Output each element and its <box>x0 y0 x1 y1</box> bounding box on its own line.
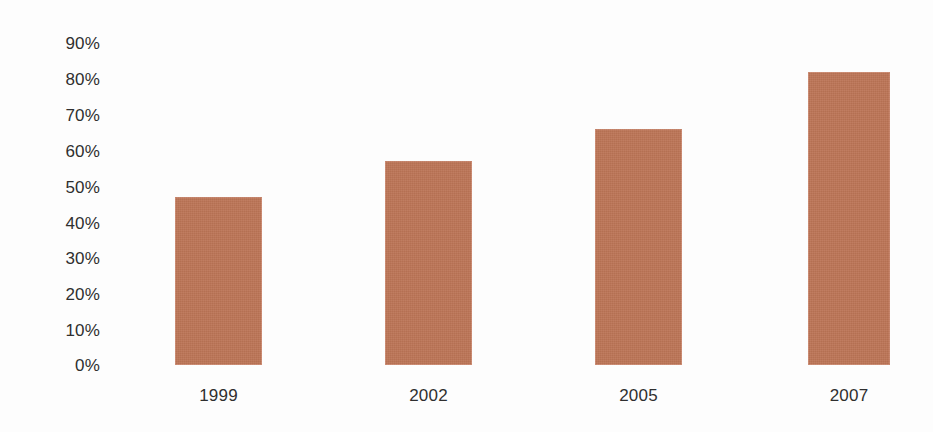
x-axis-tick-label: 2002 <box>363 387 494 404</box>
y-axis-tick-label: 20% <box>0 286 108 303</box>
y-axis-tick-label: 80% <box>0 71 108 88</box>
x-axis-tick-label: 1999 <box>153 387 284 404</box>
plot-area: 1999 2002 2005 2007 <box>108 0 933 432</box>
bar-chart: 90% 80% 70% 60% 50% 40% 30% 20% 10% 0% 1… <box>0 0 933 432</box>
y-axis: 90% 80% 70% 60% 50% 40% 30% 20% 10% 0% <box>0 0 108 432</box>
y-axis-tick-label: 50% <box>0 179 108 196</box>
bar-2002 <box>385 161 472 365</box>
y-axis-tick-label: 10% <box>0 322 108 339</box>
y-axis-tick-label: 40% <box>0 215 108 232</box>
y-axis-tick-label: 0% <box>0 357 108 374</box>
bar-2007 <box>808 72 890 365</box>
bar-2005 <box>595 129 682 365</box>
y-axis-tick-label: 60% <box>0 143 108 160</box>
bar-1999 <box>175 197 262 365</box>
x-axis-tick-label: 2005 <box>573 387 704 404</box>
x-axis-tick-label: 2007 <box>786 387 912 404</box>
y-axis-tick-label: 90% <box>0 35 108 52</box>
y-axis-tick-label: 70% <box>0 107 108 124</box>
y-axis-tick-label: 30% <box>0 250 108 267</box>
